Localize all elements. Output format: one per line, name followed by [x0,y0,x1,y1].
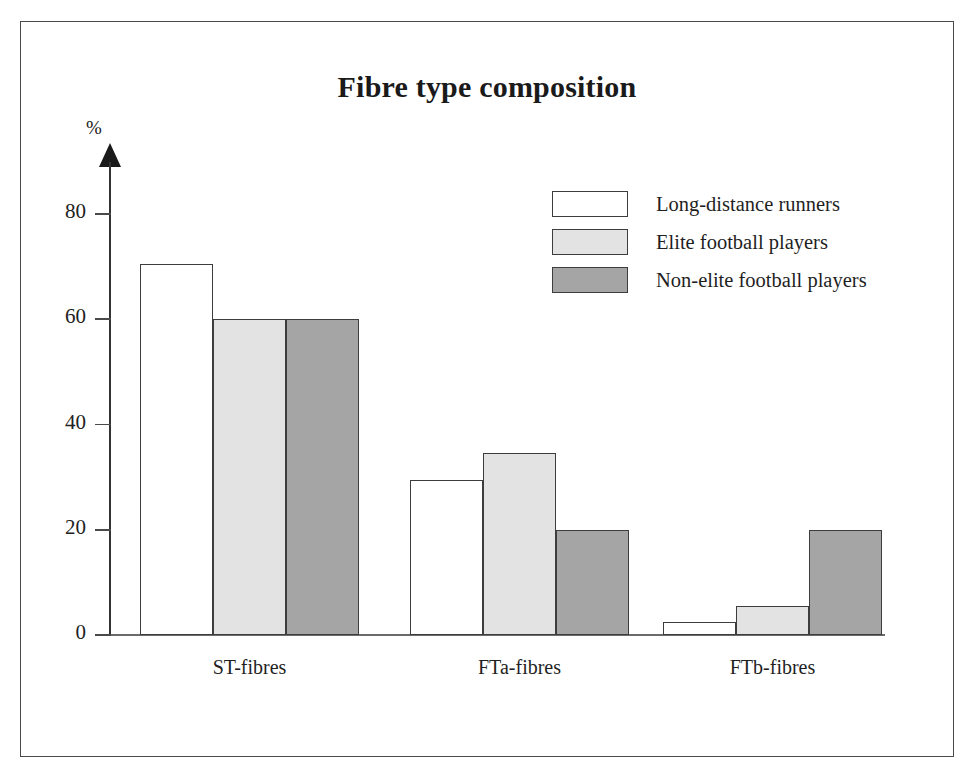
bar [663,622,736,635]
legend-item: Elite football players [552,224,867,260]
x-axis-category-label: ST-fibres [140,656,360,679]
bar [483,453,556,635]
bar [556,530,629,635]
bar [286,319,359,635]
legend-swatch [552,229,628,255]
y-axis-tick-label: 0 [42,620,86,645]
figure-container: Fibre type composition % 020406080 ST-fi… [0,0,974,779]
legend-item-label: Non-elite football players [656,269,867,292]
bar [213,319,286,635]
legend-item-label: Elite football players [656,231,828,254]
y-axis-tick [95,634,111,636]
bar [736,606,809,635]
bar [410,480,483,635]
legend-swatch [552,191,628,217]
y-axis-tick-label: 80 [42,199,86,224]
x-axis-category-label: FTa-fibres [410,656,630,679]
y-axis-line [109,162,111,636]
y-axis-unit-label: % [86,117,102,139]
chart-legend: Long-distance runnersElite football play… [552,186,867,300]
y-axis-tick [95,529,111,531]
legend-item-label: Long-distance runners [656,193,840,216]
y-axis-tick-label: 40 [42,410,86,435]
x-axis-category-label: FTb-fibres [663,656,883,679]
bar [140,264,213,635]
bar [809,530,882,635]
legend-item: Long-distance runners [552,186,867,222]
y-axis-tick-label: 20 [42,515,86,540]
legend-swatch [552,267,628,293]
y-axis-tick [95,318,111,320]
y-axis-tick [95,424,111,426]
y-axis-tick-label: 60 [42,304,86,329]
page-title: Fibre type composition [0,70,974,104]
y-axis-tick [95,213,111,215]
legend-item: Non-elite football players [552,262,867,298]
